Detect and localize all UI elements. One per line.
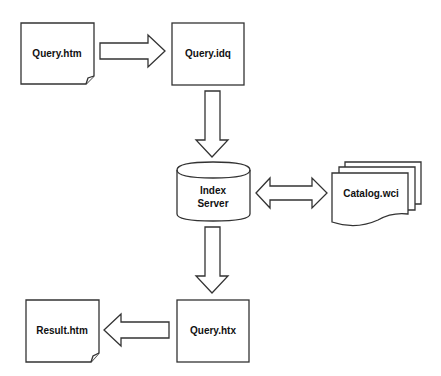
node-query-htx-label: Query.htx	[190, 325, 236, 336]
node-query-htx: Query.htx	[177, 300, 249, 362]
node-result-htm-label: Result.htm	[36, 325, 88, 336]
arrow-down-icon	[196, 227, 228, 293]
arrow-right-icon	[100, 35, 165, 67]
diagram-canvas: Query.htm Query.idq Index Server Catalog…	[0, 0, 441, 376]
arrow-down-icon	[196, 91, 228, 157]
node-index-server-label-line2: Server	[197, 198, 228, 209]
node-result-htm: Result.htm	[26, 300, 99, 362]
node-query-idq-label: Query.idq	[185, 48, 231, 59]
node-query-idq: Query.idq	[172, 23, 244, 85]
node-query-htm: Query.htm	[21, 23, 94, 84]
node-index-server-label-line1: Index	[200, 185, 227, 196]
node-catalog-wci: Catalog.wci	[332, 162, 421, 226]
arrow-left-icon	[104, 314, 169, 346]
arrow-bidirectional-icon	[256, 178, 327, 208]
node-query-htm-label: Query.htm	[32, 48, 81, 59]
node-catalog-wci-label: Catalog.wci	[343, 188, 399, 199]
node-index-server: Index Server	[177, 162, 250, 221]
